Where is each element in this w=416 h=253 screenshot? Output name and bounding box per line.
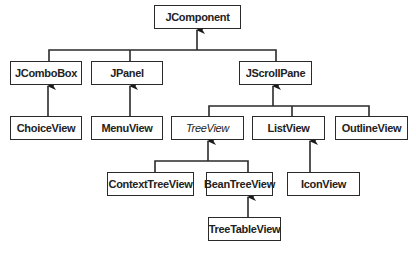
node-jcomponent: JComponent [154,5,241,29]
node-listview: ListView [252,116,325,140]
node-contexttreeview: ContextTreeView [107,172,194,196]
node-treeview: TreeView [171,116,244,140]
node-beantreeview: BeanTreeView [206,172,273,196]
treeview-children-bus [155,161,248,172]
node-menuview: MenuView [91,116,163,140]
node-choiceview: ChoiceView [10,116,82,140]
node-outlineview: OutlineView [335,116,408,140]
jcomponent-children-bus [49,50,276,61]
node-treetableview: TreeTableView [208,217,281,241]
node-iconview: IconView [287,172,360,196]
node-jpanel: JPanel [91,61,163,85]
class-hierarchy-diagram: JComponent JComboBox JPanel JScrollPane … [0,0,416,253]
jscrollpane-children-bus [209,106,369,116]
node-jscrollpane: JScrollPane [239,61,312,85]
node-jcombobox: JComboBox [10,61,82,85]
